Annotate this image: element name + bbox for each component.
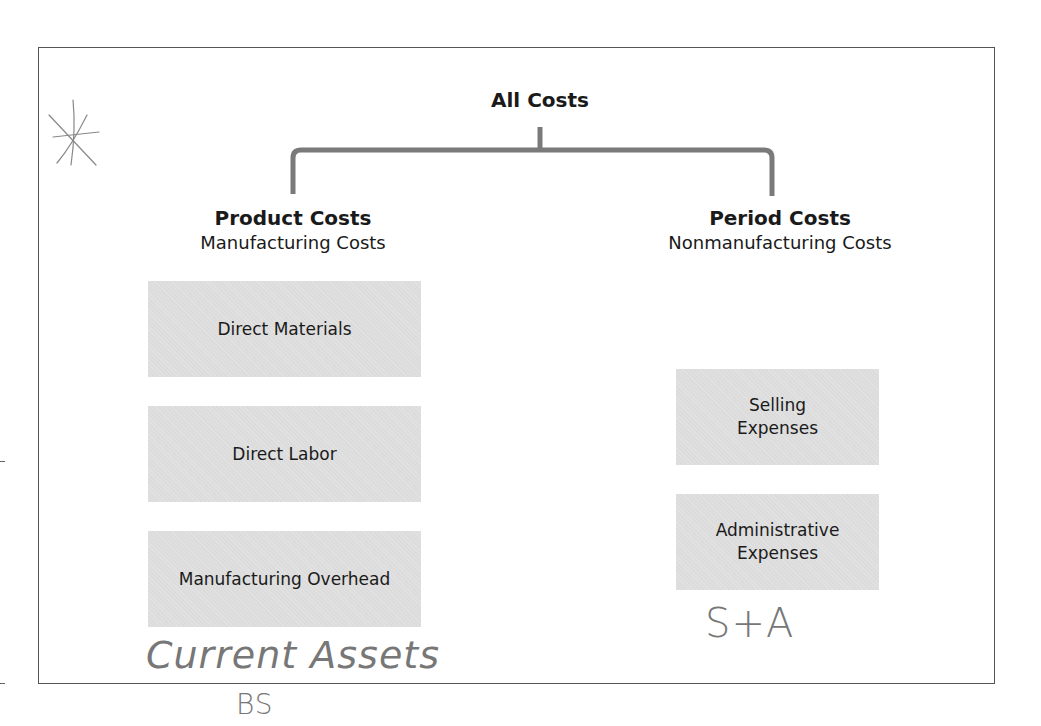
branch-title: Period Costs [625,205,935,231]
branch-subtitle: Nonmanufacturing Costs [625,231,935,255]
item-manufacturing-overhead: Manufacturing Overhead [148,531,421,627]
root-node-all-costs: All Costs [440,88,640,112]
item-selling-expenses: Selling Expenses [676,369,879,465]
branch-title: Product Costs [148,205,438,231]
branch-subtitle: Manufacturing Costs [148,231,438,255]
item-administrative-expenses: Administrative Expenses [676,494,879,590]
handwritten-note-bs: BS [236,688,274,721]
branch-header-product: Product Costs Manufacturing Costs [148,205,438,255]
handwritten-note-current-assets: Current Assets [146,633,440,677]
item-direct-labor: Direct Labor [148,406,421,502]
asterisk-icon [49,100,99,165]
item-direct-materials: Direct Materials [148,281,421,377]
branch-header-period: Period Costs Nonmanufacturing Costs [625,205,935,255]
handwritten-note-s-and-a: S+A [705,600,794,646]
